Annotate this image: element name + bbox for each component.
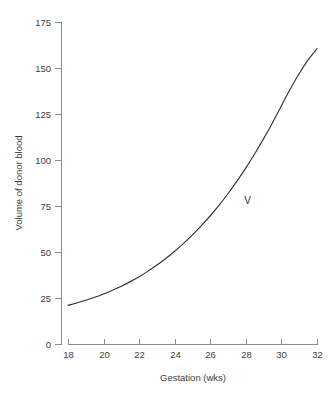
x-tick-label-22: 22 (134, 349, 145, 360)
x-tick-label-24: 24 (170, 349, 181, 360)
chart-canvas: 0255075100125150175 1820222426283032 V G… (0, 0, 333, 397)
x-tick-label-26: 26 (205, 349, 216, 360)
x-tick-label-18: 18 (63, 349, 74, 360)
x-tick-label-30: 30 (276, 349, 287, 360)
x-axis-ticks (69, 339, 318, 345)
x-tick-label-20: 20 (99, 349, 110, 360)
y-tick-label-175: 175 (35, 17, 51, 28)
x-tick-label-28: 28 (241, 349, 252, 360)
y-tick-label-50: 50 (40, 247, 51, 258)
curve-annotation-v: V (244, 195, 251, 206)
y-axis-tick-labels: 0255075100125150175 (35, 17, 51, 350)
y-tick-label-75: 75 (40, 201, 51, 212)
y-tick-label-0: 0 (46, 339, 51, 350)
chart-figure: 0255075100125150175 1820222426283032 V G… (0, 0, 333, 397)
x-tick-label-32: 32 (312, 349, 323, 360)
y-tick-label-25: 25 (40, 293, 51, 304)
y-tick-label-125: 125 (35, 109, 51, 120)
data-curve-volume (68, 49, 317, 306)
y-tick-label-150: 150 (35, 63, 51, 74)
y-tick-label-100: 100 (35, 155, 51, 166)
y-axis-title: Volume of donor blood (13, 135, 24, 230)
curve-annotations: V (244, 195, 251, 206)
x-axis-title: Gestation (wks) (160, 372, 226, 383)
x-axis-tick-labels: 1820222426283032 (63, 349, 323, 360)
y-axis-ticks (55, 23, 62, 345)
